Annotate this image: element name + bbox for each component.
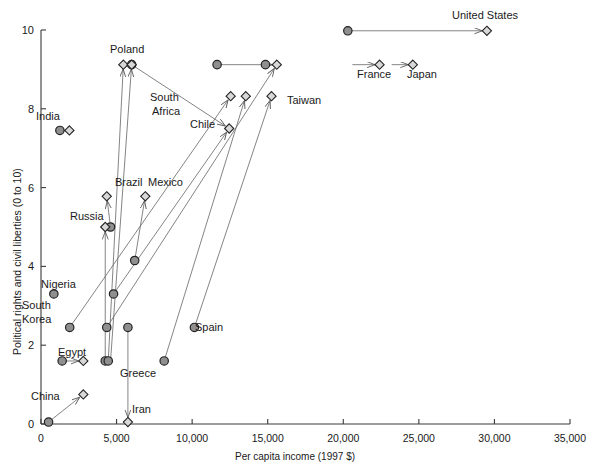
circle-marker-egypt-start <box>58 357 66 365</box>
country-label-south-africa-2: Africa <box>152 106 180 117</box>
plot-canvas <box>0 0 599 465</box>
y-tick-label: 8 <box>18 103 34 114</box>
country-label-south-africa-1: South <box>150 92 179 103</box>
diamond-marker-india-end <box>65 126 74 135</box>
circle-marker-nigeria-start <box>50 290 58 298</box>
country-label-iran: Iran <box>132 404 151 415</box>
y-tick-label: 10 <box>18 25 34 36</box>
country-label-russia: Russia <box>70 211 104 222</box>
circle-marker-south-korea-start <box>66 323 74 331</box>
diamond-marker-taiwan-mid <box>267 92 276 101</box>
country-label-chile: Chile <box>190 119 215 130</box>
country-label-taiwan: Taiwan <box>287 95 321 106</box>
circle-marker-chile-start <box>109 290 117 298</box>
circle-marker-poland-origin <box>104 357 112 365</box>
circle-marker-iran-start <box>124 323 132 331</box>
x-tick-label: 15,000 <box>252 433 284 444</box>
x-tick-label: 5,000 <box>103 433 129 444</box>
x-tick-label: 20,000 <box>327 433 359 444</box>
circle-marker-taiwan-start <box>261 60 269 68</box>
country-label-mexico: Mexico <box>148 177 183 188</box>
country-label-japan: Japan <box>407 69 437 80</box>
country-label-india: India <box>36 111 60 122</box>
diamond-marker-brazil-end <box>102 192 111 201</box>
arrow-taiwan-up <box>107 68 275 327</box>
y-tick-label: 0 <box>18 419 34 430</box>
circle-marker-south-africa-start <box>213 60 221 68</box>
scatter-plot-figure: 05,00010,00015,00020,00025,00030,00035,0… <box>0 0 599 465</box>
country-label-spain: Spain <box>195 322 223 333</box>
arrow-spain-up <box>194 100 270 327</box>
country-label-united-states: United States <box>452 10 518 21</box>
country-label-china: China <box>31 391 60 402</box>
data-markers <box>44 26 491 426</box>
country-label-south-korea-2: Korea <box>22 314 51 325</box>
country-label-france: France <box>357 69 391 80</box>
circle-marker-taiwan-origin <box>103 323 111 331</box>
x-tick-label: 25,000 <box>403 433 435 444</box>
country-label-poland: Poland <box>110 44 144 55</box>
diamond-marker-united-states-end <box>482 26 491 35</box>
diamond-marker-iran-end <box>123 417 132 426</box>
x-tick-label: 30,000 <box>478 433 510 444</box>
circle-marker-united-states-start <box>344 27 352 35</box>
diamond-marker-south-korea-end <box>226 92 235 101</box>
y-axis-title: Political rights and civil liberties (0 … <box>12 168 23 355</box>
diamond-marker-mexico-end <box>141 192 150 201</box>
diamond-marker-taiwan-end <box>272 60 281 69</box>
circle-marker-mexico-start <box>131 256 139 264</box>
diamond-marker-chile-end <box>225 124 234 133</box>
country-label-nigeria: Nigeria <box>41 279 76 290</box>
x-tick-label: 10,000 <box>176 433 208 444</box>
country-label-brazil: Brazil <box>115 177 143 188</box>
x-axis-title: Per capita income (1997 $) <box>235 452 355 462</box>
x-tick-label: 35,000 <box>554 433 586 444</box>
country-label-egypt: Egypt <box>58 347 86 358</box>
country-label-greece: Greece <box>120 368 156 379</box>
diamond-marker-china-end <box>79 390 88 399</box>
circle-marker-greece-start <box>160 357 168 365</box>
diamond-marker-greece-end <box>241 92 250 101</box>
circle-marker-india-start <box>56 126 64 134</box>
circle-marker-china-start <box>44 418 52 426</box>
x-tick-label: 0 <box>38 433 44 444</box>
country-label-south-korea-1: South <box>22 300 51 311</box>
